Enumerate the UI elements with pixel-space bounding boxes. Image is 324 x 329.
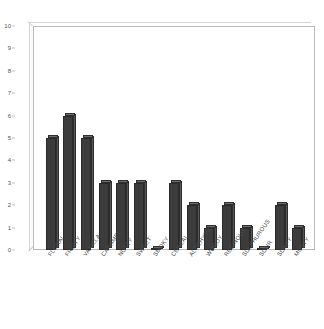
bar-slot [257, 26, 267, 250]
bar-slot [275, 26, 285, 250]
bar-caramel[interactable] [99, 183, 109, 250]
bar-cereal[interactable] [169, 183, 179, 250]
y-axis-tick-mark [12, 160, 15, 161]
y-axis-tick-label: 3 [8, 180, 11, 186]
bar-side-face [56, 136, 59, 248]
y-axis-tick-label: 5 [8, 135, 11, 141]
y-axis-tick-mark [12, 138, 15, 139]
bar-slot [151, 26, 161, 250]
bar-top-face [277, 202, 287, 205]
bar-top-face [83, 135, 93, 138]
bar-nutty[interactable] [116, 183, 126, 250]
y-axis-tick-mark [12, 227, 15, 228]
bar-top-face [294, 225, 304, 228]
bar-slot [63, 26, 73, 250]
y-axis-tick-label: 4 [8, 157, 11, 163]
bar-fruity[interactable] [63, 116, 73, 250]
bar-side-face [73, 114, 76, 248]
bar-slot [187, 26, 197, 250]
y-axis-tick-mark [12, 115, 15, 116]
bar-top-face [48, 135, 58, 138]
bar-slot [99, 26, 109, 250]
y-axis-tick-label: 7 [8, 90, 11, 96]
y-axis-tick-label: 9 [8, 45, 11, 51]
bar-top-face [101, 180, 111, 183]
y-axis-tick-label: 0 [8, 247, 11, 253]
bar-slot [292, 26, 302, 250]
x-axis-labels: FLORALFRUITYVANILLACARAMELNUTTYSWEETSMOK… [33, 250, 315, 310]
bar-slot [222, 26, 232, 250]
bar-slot [169, 26, 179, 250]
bar-floral[interactable] [46, 138, 56, 250]
bar-top-face [189, 202, 199, 205]
y-axis: 109876543210 [0, 0, 33, 329]
bar-slot [134, 26, 144, 250]
y-axis-tick-mark [12, 205, 15, 206]
y-axis-tick-mark [12, 182, 15, 183]
bars-layer [33, 26, 315, 250]
bar-vanilla[interactable] [81, 138, 91, 250]
y-axis-tick-mark [12, 250, 15, 251]
y-axis-tick-mark [12, 48, 15, 49]
bar-slot [81, 26, 91, 250]
y-axis-tick-label: 1 [8, 225, 11, 231]
bar-top-face [171, 180, 181, 183]
bar-chart: 109876543210 FLORALFRUITYVANILLACARAMELN… [0, 0, 324, 329]
y-axis-tick-label: 8 [8, 68, 11, 74]
bar-top-face [65, 113, 75, 116]
y-axis-tick-label: 2 [8, 202, 11, 208]
bar-side-face [91, 136, 94, 248]
y-axis-tick-mark [12, 93, 15, 94]
y-axis-tick-label: 10 [4, 23, 11, 29]
bar-top-face [224, 202, 234, 205]
bar-slot [204, 26, 214, 250]
bar-top-face [136, 180, 146, 183]
y-axis-tick-mark [12, 70, 15, 71]
bar-slot [240, 26, 250, 250]
y-axis-tick-label: 6 [8, 113, 11, 119]
bar-slot [116, 26, 126, 250]
y-axis-tick-mark [12, 26, 15, 27]
bar-top-face [118, 180, 128, 183]
bar-slot [46, 26, 56, 250]
bar-sweet[interactable] [134, 183, 144, 250]
